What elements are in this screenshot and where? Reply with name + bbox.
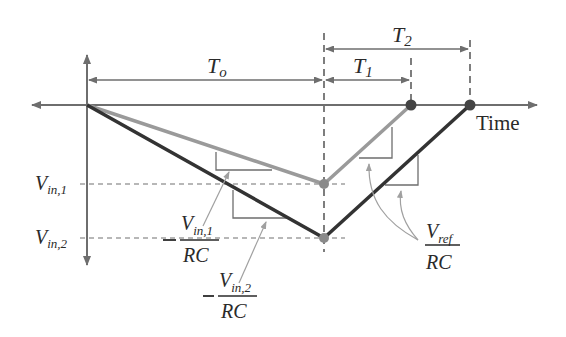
vref1-slope-triangle [359, 127, 392, 158]
vin2-label: Vin,2 [35, 226, 68, 251]
vin1-label: Vin,1 [35, 172, 67, 197]
t1-zero-crossing-marker [406, 100, 417, 111]
svg-text:RC: RC [182, 244, 209, 266]
t1-label: T1 [353, 53, 373, 80]
diagram-canvas: Time To T1 T2 Vin,1 Vin,2 [0, 0, 566, 337]
time-axis-label: Time [476, 111, 520, 135]
t2-label: T2 [392, 22, 412, 49]
time-axis: Time [32, 105, 537, 135]
vin2-min-marker [319, 233, 329, 243]
vin1-min-marker [319, 179, 329, 189]
svg-text:RC: RC [425, 251, 452, 273]
svg-text:Vref: Vref [426, 220, 455, 246]
svg-text:Vin,2: Vin,2 [219, 269, 252, 295]
vin1-slope-leader [203, 172, 229, 226]
vin2-slope-leader [239, 222, 266, 283]
vin1-slope-label: − Vin,1 RC [160, 212, 219, 266]
vref2-slope-triangle [385, 155, 418, 185]
vin2-slope-sign: − [200, 299, 201, 300]
vref-slope-label: Vref RC [425, 220, 460, 273]
vin2-slope-label: − Vin,2 RC [200, 269, 257, 322]
vin1-slope-triangle [216, 152, 272, 170]
t2-zero-crossing-marker [465, 100, 476, 111]
t0-label: To [207, 53, 227, 80]
svg-text:RC: RC [220, 300, 247, 322]
vin1-slope-sign: − [160, 244, 161, 245]
slope-triangles [216, 127, 418, 218]
vin1-trace [87, 105, 411, 184]
vref2-slope-leader [400, 191, 418, 240]
